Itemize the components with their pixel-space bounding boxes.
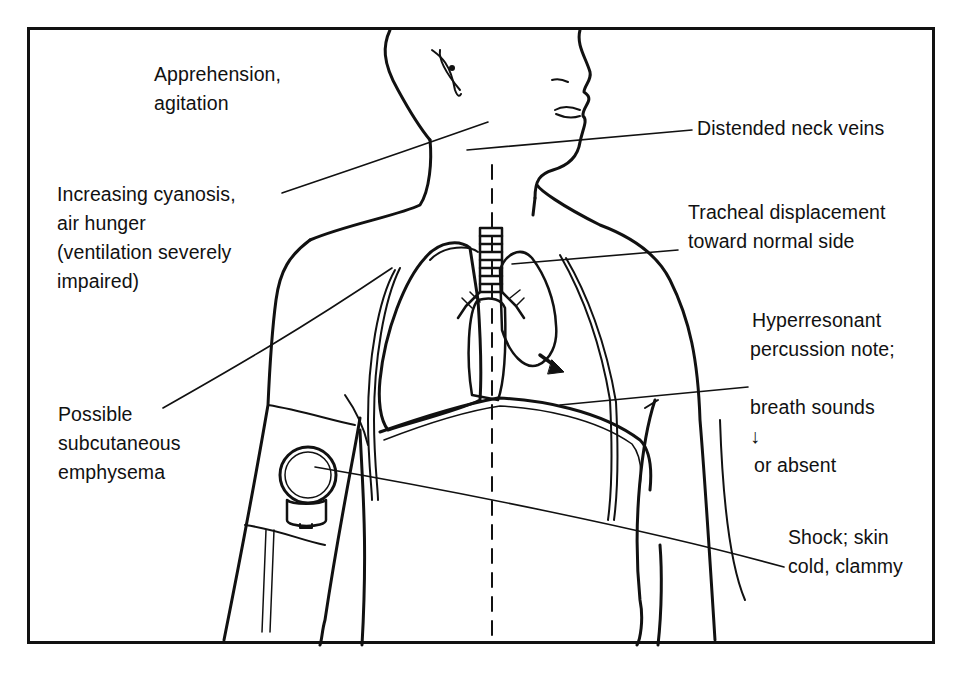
label-apprehension: Apprehension, agitation <box>154 60 281 118</box>
label-distended-neck-veins: Distended neck veins <box>697 114 884 143</box>
label-increasing-cyanosis: Increasing cyanosis, air hunger (ventila… <box>57 180 236 296</box>
label-subcutaneous-emphysema: Possible subcutaneous emphysema <box>58 400 181 487</box>
breath-sounds-text: breath sounds <box>750 396 875 418</box>
label-shock: Shock; skin cold, clammy <box>788 523 903 581</box>
label-hyperresonant-line4: or absent <box>754 451 899 480</box>
label-hyperresonant: Hyperresonant percussion note; breath so… <box>752 306 897 480</box>
label-hyperresonant-line2: percussion note; <box>750 335 895 364</box>
decreased-arrow-icon: ↓ <box>750 426 760 446</box>
label-tracheal-displacement: Tracheal displacement toward normal side <box>688 198 886 256</box>
head-outline <box>385 30 590 198</box>
label-hyperresonant-line3: breath sounds ↓ <box>750 364 895 451</box>
label-hyperresonant-line1: Hyperresonant <box>752 306 897 335</box>
